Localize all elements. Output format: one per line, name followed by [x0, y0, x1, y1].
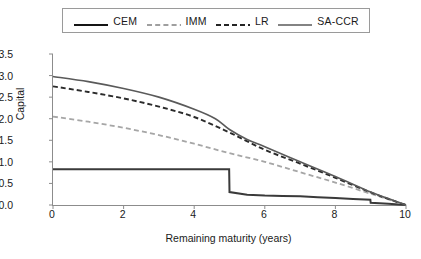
y-axis-title: Capital — [14, 64, 26, 144]
legend-label-imm: IMM — [186, 15, 207, 27]
y-tick-label: 2.5 — [0, 92, 13, 103]
x-tick-label: 10 — [390, 209, 420, 220]
legend-item-imm[interactable]: IMM — [146, 15, 207, 27]
y-tick-label: 1.5 — [0, 135, 13, 146]
legend-item-lr[interactable]: LR — [215, 15, 269, 27]
chart-figure: CEM IMM LR SA-CCR Capital Remaining matu… — [0, 0, 421, 259]
y-tick-label: 0.5 — [0, 178, 13, 189]
legend-swatch-lr — [215, 16, 251, 26]
x-tick-label: 2 — [108, 209, 138, 220]
plot-area — [52, 54, 406, 206]
y-tick-label: 3.0 — [0, 71, 13, 82]
legend-item-sa-ccr[interactable]: SA-CCR — [277, 15, 358, 27]
y-tick-label: 1.0 — [0, 157, 13, 168]
x-axis-title: Remaining maturity (years) — [52, 232, 405, 244]
x-tick-label: 6 — [249, 209, 279, 220]
x-tick-label: 8 — [319, 209, 349, 220]
y-tick-label: 0.0 — [0, 200, 13, 211]
legend-label-lr: LR — [255, 15, 269, 27]
legend-swatch-sa-ccr — [277, 16, 313, 26]
plot-canvas — [53, 54, 406, 205]
legend-swatch-imm — [146, 16, 182, 26]
x-tick-label: 4 — [178, 209, 208, 220]
x-tick-label: 0 — [37, 209, 67, 220]
series-line-cem — [53, 169, 406, 205]
y-tick-label: 2.0 — [0, 114, 13, 125]
legend-swatch-cem — [73, 16, 109, 26]
chart-legend: CEM IMM LR SA-CCR — [62, 8, 370, 33]
legend-label-cem: CEM — [113, 15, 137, 27]
legend-item-cem[interactable]: CEM — [73, 15, 137, 27]
y-tick-label: 3.5 — [0, 49, 13, 60]
legend-label-sa-ccr: SA-CCR — [317, 15, 358, 27]
